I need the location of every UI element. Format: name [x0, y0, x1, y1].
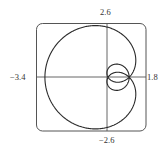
x-max-label: 1.8	[147, 72, 158, 82]
x-min-label: −3.4	[10, 72, 26, 82]
polar-plot: 2.6 −2.6 −3.4 1.8	[0, 0, 167, 149]
y-max-label: 2.6	[100, 7, 111, 17]
y-min-label: −2.6	[99, 135, 114, 145]
